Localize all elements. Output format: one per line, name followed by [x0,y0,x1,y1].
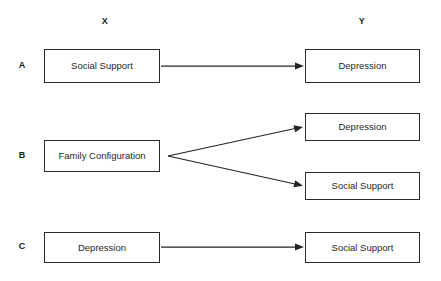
node-c-source: Depression [44,232,160,263]
node-b-source: Family Configuration [44,140,160,172]
row-label-a: A [15,60,29,71]
node-a-source: Social Support [44,49,160,83]
node-b-target-social-support: Social Support [305,172,420,200]
row-label-c: C [15,241,29,252]
row-label-b: B [15,150,29,161]
node-b-target-depression: Depression [305,113,420,141]
column-header-x: X [90,16,120,27]
node-a-target: Depression [305,49,420,83]
node-c-target: Social Support [305,232,420,263]
arrow-b-upper-icon [168,125,303,156]
column-header-y: Y [347,16,377,27]
arrow-a-icon [161,62,304,69]
diagram-canvas: X Y A B C Social Support Depression Fami… [0,0,441,281]
arrow-c-icon [161,243,304,250]
arrow-b-lower-icon [168,156,303,187]
